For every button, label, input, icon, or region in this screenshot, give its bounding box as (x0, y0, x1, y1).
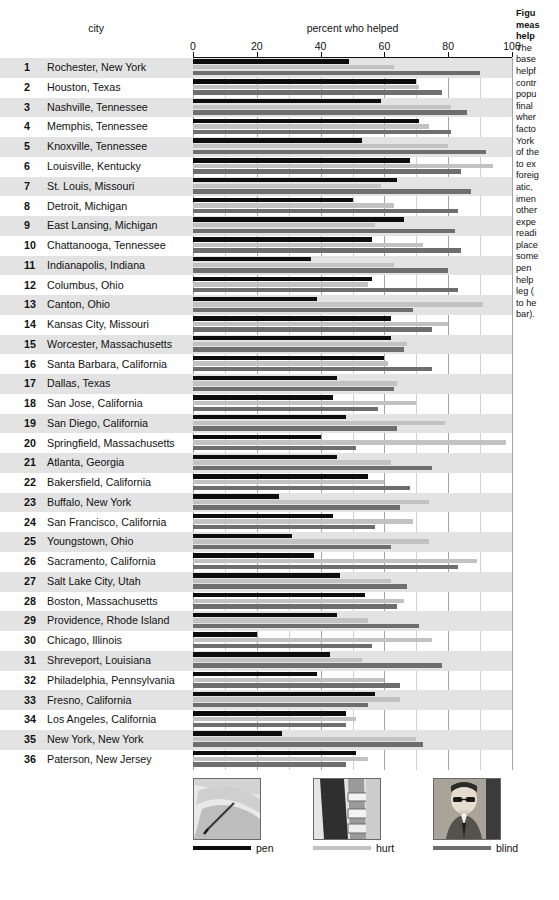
legend-key-pen: pen (193, 842, 274, 854)
bar-pen (193, 395, 333, 399)
bar-pen (193, 692, 375, 696)
chart-row[interactable]: 19San Diego, California (0, 414, 512, 434)
caption-body-line: to ex (516, 159, 559, 171)
row-bars (193, 315, 512, 335)
chart-row[interactable]: 15Worcester, Massachusetts (0, 335, 512, 355)
bar-blind (193, 90, 442, 94)
row-label-group: 13Canton, Ohio (0, 295, 186, 315)
row-bars (193, 58, 512, 78)
chart-row[interactable]: 11Indianapolis, Indiana (0, 256, 512, 276)
row-city-label: Paterson, New Jersey (47, 753, 152, 765)
chart-row[interactable]: 33Fresno, California (0, 690, 512, 710)
chart-row[interactable]: 21Atlanta, Georgia (0, 453, 512, 473)
bar-blind (193, 150, 486, 154)
row-rank: 5 (24, 140, 44, 152)
chart-row[interactable]: 4Memphis, Tennessee (0, 117, 512, 137)
row-bars (193, 196, 512, 216)
row-bars (193, 532, 512, 552)
bar-pen (193, 79, 416, 83)
chart-row[interactable]: 23Buffalo, New York (0, 493, 512, 513)
bar-blind (193, 130, 451, 134)
chart-row[interactable]: 35New York, New York (0, 730, 512, 750)
row-rank: 6 (24, 160, 44, 172)
row-label-group: 16Santa Barbara, California (0, 354, 186, 374)
chart-row[interactable]: 20Springfield, Massachusetts (0, 433, 512, 453)
bar-blind (193, 248, 461, 252)
row-city-label: Kansas City, Missouri (47, 318, 149, 330)
chart-row[interactable]: 36Paterson, New Jersey (0, 750, 512, 770)
chart-row[interactable]: 31Shreveport, Louisiana (0, 651, 512, 671)
bar-pen (193, 257, 311, 261)
legend-item-blind[interactable]: blind (433, 778, 525, 840)
bar-chart-plot: 1Rochester, New York2Houston, Texas3Nash… (0, 58, 559, 770)
bar-pen (193, 573, 340, 577)
row-rank: 27 (24, 575, 44, 587)
row-bars (193, 671, 512, 691)
bar-blind (193, 723, 346, 727)
bar-hurt (193, 579, 391, 583)
row-rank: 19 (24, 417, 44, 429)
chart-row[interactable]: 9East Lansing, Michigan (0, 216, 512, 236)
chart-row[interactable]: 29Providence, Rhode Island (0, 611, 512, 631)
row-label-group: 26Sacramento, California (0, 552, 186, 572)
row-label-group: 2Houston, Texas (0, 78, 186, 98)
row-label-group: 27Salt Lake City, Utah (0, 572, 186, 592)
x-axis-tick-80: 80 (442, 40, 454, 52)
row-bars (193, 216, 512, 236)
chart-row[interactable]: 6Louisville, Kentucky (0, 157, 512, 177)
chart-row[interactable]: 28Boston, Massachusetts (0, 592, 512, 612)
chart-row[interactable]: 10Chattanooga, Tennessee (0, 236, 512, 256)
bar-hurt (193, 638, 432, 642)
caption-body-line: contr (516, 78, 559, 90)
measure-column-header: percent who helped (193, 22, 512, 34)
caption-body-line: helpf (516, 66, 559, 78)
row-label-group: 35New York, New York (0, 730, 186, 750)
bar-hurt (193, 263, 394, 267)
bar-blind (193, 268, 448, 272)
chart-row[interactable]: 18San Jose, California (0, 394, 512, 414)
row-label-group: 15Worcester, Massachusetts (0, 335, 186, 355)
bar-hurt (193, 658, 362, 662)
chart-row[interactable]: 30Chicago, Illinois (0, 631, 512, 651)
chart-row[interactable]: 5Knoxville, Tennessee (0, 137, 512, 157)
chart-row[interactable]: 12Columbus, Ohio (0, 275, 512, 295)
chart-row[interactable]: 27Salt Lake City, Utah (0, 572, 512, 592)
x-axis-tick-0: 0 (190, 40, 196, 52)
bar-pen (193, 158, 410, 162)
chart-row[interactable]: 25Youngstown, Ohio (0, 532, 512, 552)
chart-row[interactable]: 16Santa Barbara, California (0, 354, 512, 374)
chart-row[interactable]: 26Sacramento, California (0, 552, 512, 572)
row-rank: 3 (24, 101, 44, 113)
row-label-group: 31Shreveport, Louisiana (0, 651, 186, 671)
chart-row[interactable]: 24San Francisco, California (0, 512, 512, 532)
bar-pen (193, 415, 346, 419)
bar-hurt (193, 500, 429, 504)
bar-pen (193, 632, 257, 636)
bar-hurt (193, 757, 368, 761)
row-rank: 10 (24, 239, 44, 251)
legend-item-hurt[interactable]: hurt (313, 778, 405, 840)
chart-row[interactable]: 7St. Louis, Missouri (0, 177, 512, 197)
row-city-label: Chattanooga, Tennessee (47, 239, 166, 251)
chart-row[interactable]: 17Dallas, Texas (0, 374, 512, 394)
bar-pen (193, 613, 337, 617)
chart-row[interactable]: 2Houston, Texas (0, 78, 512, 98)
chart-row[interactable]: 32Philadelphia, Pennsylvania (0, 671, 512, 691)
legend-item-pen[interactable]: pen (193, 778, 285, 840)
bar-pen (193, 534, 292, 538)
bar-blind (193, 71, 480, 75)
chart-row[interactable]: 8Detroit, Michigan (0, 196, 512, 216)
chart-row[interactable]: 3Nashville, Tennessee (0, 98, 512, 118)
row-city-label: Memphis, Tennessee (47, 120, 148, 132)
chart-row[interactable]: 34Los Angeles, California (0, 710, 512, 730)
chart-row[interactable]: 22Bakersfield, California (0, 473, 512, 493)
row-label-group: 36Paterson, New Jersey (0, 750, 186, 770)
x-axis-tick-labels: 020406080100 (193, 40, 512, 58)
chart-row[interactable]: 1Rochester, New York (0, 58, 512, 78)
bar-pen (193, 672, 317, 676)
caption-title-line: help (516, 31, 559, 43)
row-rank: 31 (24, 654, 44, 666)
chart-row[interactable]: 14Kansas City, Missouri (0, 315, 512, 335)
x-axis-tick-20: 20 (251, 40, 263, 52)
chart-row[interactable]: 13Canton, Ohio (0, 295, 512, 315)
